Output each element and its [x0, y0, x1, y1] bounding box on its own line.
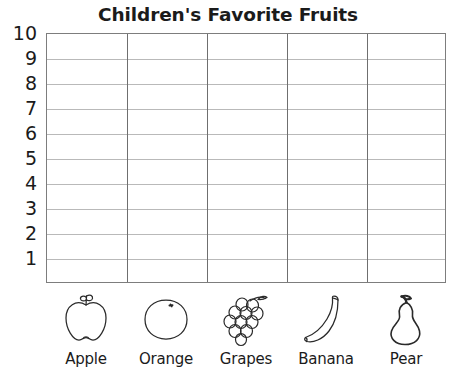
category-apple[interactable]: Apple — [46, 286, 126, 386]
category-label-banana: Banana — [286, 350, 366, 368]
chart-plot-area[interactable] — [46, 33, 446, 283]
y-axis-tick-6: 6 — [0, 124, 37, 143]
grapes-icon — [206, 286, 286, 348]
banana-icon — [286, 286, 366, 348]
y-axis-tick-3: 3 — [0, 199, 37, 218]
grid-row-line — [47, 234, 445, 235]
category-label-apple: Apple — [46, 350, 126, 368]
y-axis-tick-9: 9 — [0, 49, 37, 68]
page-title: Children's Favorite Fruits — [0, 4, 456, 25]
category-label-pear: Pear — [366, 350, 446, 368]
grid-row-line — [47, 159, 445, 160]
orange-icon — [126, 286, 206, 348]
y-axis-labels: 10 9 8 7 6 5 4 3 2 1 — [0, 33, 42, 283]
y-axis-tick-7: 7 — [0, 99, 37, 118]
grid-column-divider — [367, 34, 368, 282]
x-axis-category-row: Apple Orange — [46, 286, 446, 386]
grid-row-line — [47, 209, 445, 210]
grid-row-line — [47, 184, 445, 185]
pear-icon — [366, 286, 446, 348]
grid-column-divider — [127, 34, 128, 282]
category-orange[interactable]: Orange — [126, 286, 206, 386]
y-axis-tick-10: 10 — [0, 24, 37, 43]
grid-column-divider — [287, 34, 288, 282]
grid-row-line — [47, 84, 445, 85]
category-label-grapes: Grapes — [206, 350, 286, 368]
y-axis-tick-2: 2 — [0, 224, 37, 243]
y-axis-tick-1: 1 — [0, 249, 37, 268]
grid-row-line — [47, 59, 445, 60]
y-axis-tick-8: 8 — [0, 74, 37, 93]
apple-icon — [46, 286, 126, 348]
grid-row-line — [47, 109, 445, 110]
y-axis-tick-4: 4 — [0, 174, 37, 193]
category-grapes[interactable]: Grapes — [206, 286, 286, 386]
grid-column-divider — [207, 34, 208, 282]
y-axis-tick-5: 5 — [0, 149, 37, 168]
cropped-header-sliver: · · · · · · — [60, 0, 250, 2]
category-banana[interactable]: Banana — [286, 286, 366, 386]
grid-row-line — [47, 134, 445, 135]
grid-row-line — [47, 259, 445, 260]
category-label-orange: Orange — [126, 350, 206, 368]
category-pear[interactable]: Pear — [366, 286, 446, 386]
